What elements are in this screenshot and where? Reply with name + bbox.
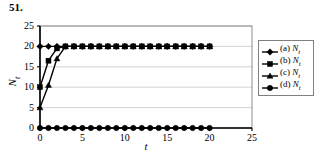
legend-entry[interactable]: (d) Nt — [261, 80, 311, 92]
y-tick-label: 5 — [12, 103, 34, 113]
axes — [40, 26, 252, 128]
chart-figure: 0510152025 0510152025 Nt t (a) Nt(b) Nt(… — [0, 18, 318, 162]
triangle-marker-icon — [261, 68, 279, 80]
legend-label: (d) Nt — [279, 80, 301, 92]
y-tick-label: 25 — [12, 21, 34, 31]
gridlines — [40, 26, 252, 108]
axis-ticks — [37, 26, 252, 131]
y-axis-title: Nt — [6, 62, 21, 102]
figure-root: 51. 0510152025 0510152025 Nt t (a) Nt(b)… — [0, 0, 318, 162]
problem-number: 51. — [9, 1, 23, 13]
square-marker-icon — [261, 56, 279, 68]
y-tick-label: 0 — [12, 123, 34, 133]
y-tick-label: 20 — [12, 41, 34, 51]
circle-marker-icon — [261, 80, 279, 92]
chart-legend: (a) Nt(b) Nt(c) Nt(d) Nt — [258, 40, 314, 96]
diamond-marker-icon — [261, 44, 279, 56]
x-axis-title: t — [40, 140, 252, 152]
